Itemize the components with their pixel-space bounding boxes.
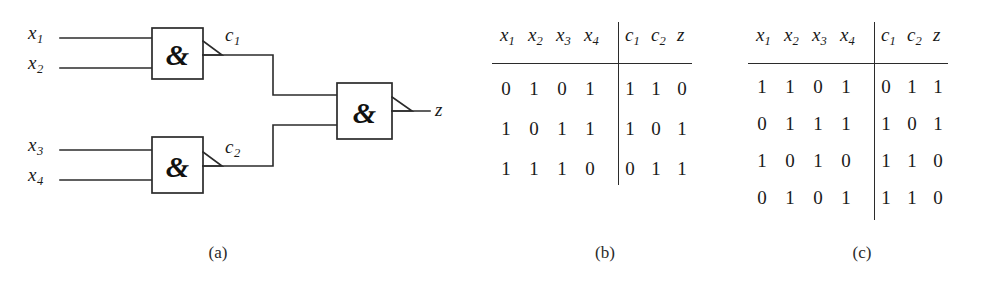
cell: 1 [621,78,639,100]
table-c-header-x4: x4 [840,24,855,49]
table-c-header-x2: x2 [784,24,799,49]
table-b-header-row: x1 x2 x3 x4 c1 c2 z [492,18,692,58]
cell: 1 [837,187,855,209]
cell: 1 [553,118,571,140]
and-gate-3-symbol: & [353,96,376,129]
cell: 1 [781,76,799,98]
panel-table-c: x1 x2 x3 x4 c1 c2 z 1 [748,18,948,58]
and-gate-2-output-arrow [203,152,222,166]
table-c-header-x1: x1 [756,24,771,49]
cell: 1 [809,113,827,135]
cell: 1 [673,158,691,180]
label-x4: x4 [28,165,43,188]
table-c-header-row: x1 x2 x3 x4 c1 c2 z [748,18,948,58]
cell: 1 [781,113,799,135]
table-b-header-c1: c1 [625,24,640,49]
cell: 1 [929,76,947,98]
cell: 1 [837,76,855,98]
wire-c2 [203,125,337,166]
label-x3: x3 [28,135,43,158]
cell: 0 [525,118,543,140]
cell: 0 [647,118,665,140]
cell: 1 [497,158,515,180]
table-c-header-rule [748,63,948,64]
caption-panel-b: (b) [595,243,615,263]
cell: 1 [525,158,543,180]
table-c-column-divider [874,22,875,220]
cell: 0 [877,76,895,98]
cell: 1 [647,158,665,180]
cell: 0 [497,78,515,100]
cell: 1 [553,158,571,180]
cell: 1 [581,118,599,140]
cell: 1 [903,187,921,209]
cell: 1 [809,150,827,172]
cell: 0 [781,150,799,172]
cell: 0 [929,187,947,209]
cell: 1 [781,187,799,209]
cell: 0 [929,150,947,172]
figure-root: & & & x1 x2 x3 x4 [0,0,984,290]
cell: 0 [753,113,771,135]
table-c-header-x3: x3 [812,24,827,49]
cell: 1 [837,113,855,135]
cell: 1 [929,113,947,135]
cell: 0 [621,158,639,180]
cell: 1 [877,150,895,172]
label-x1: x1 [28,23,43,46]
label-c1: c1 [225,25,240,48]
table-c-header-c2: c2 [907,24,922,49]
cell: 0 [553,78,571,100]
cell: 1 [877,113,895,135]
cell: 0 [673,78,691,100]
table-b-column-divider [618,22,619,185]
and-gate-3-output-arrow [392,97,412,111]
table-b-header-z: z [677,24,684,46]
cell: 1 [753,150,771,172]
cell: 1 [497,118,515,140]
and-gate-1-symbol: & [166,38,189,71]
panel-table-b: x1 x2 x3 x4 c1 c2 z [492,18,692,58]
cell: 1 [581,78,599,100]
cell: 0 [809,187,827,209]
cell: 0 [903,113,921,135]
cell: 0 [809,76,827,98]
table-b-header-x1: x1 [500,24,515,49]
label-c2: c2 [225,137,240,160]
panel-circuit: & & & x1 x2 x3 x4 [0,0,470,290]
cell: 1 [525,78,543,100]
table-b-header-c2: c2 [651,24,666,49]
cell: 1 [673,118,691,140]
cell: 1 [753,76,771,98]
cell: 1 [647,78,665,100]
cell: 1 [903,76,921,98]
cell: 1 [621,118,639,140]
table-b-header-rule [492,63,692,64]
caption-panel-c: (c) [853,243,872,263]
table-c-header-z: z [933,24,940,46]
and-gate-2-symbol: & [166,150,189,183]
table-b-header-x2: x2 [528,24,543,49]
and-gate-1-output-arrow [203,41,222,55]
table-b-header-x4: x4 [584,24,599,49]
table-c-header-c1: c1 [881,24,896,49]
cell: 1 [877,187,895,209]
label-x2: x2 [28,53,43,76]
table-b-header-x3: x3 [556,24,571,49]
cell: 0 [581,158,599,180]
caption-panel-a: (a) [209,243,228,263]
cell: 1 [903,150,921,172]
cell: 0 [837,150,855,172]
label-z: z [435,100,442,119]
cell: 0 [753,187,771,209]
wire-c1 [203,55,337,95]
